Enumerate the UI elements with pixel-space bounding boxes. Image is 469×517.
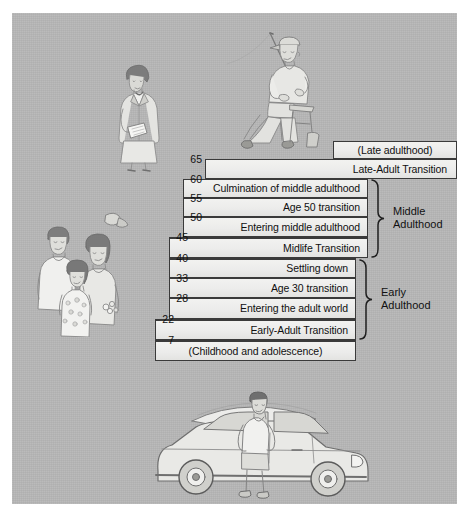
figure-panel: (Late adulthood) Late-Adult Transition C…	[12, 13, 457, 504]
stage-label: Culmination of middle adulthood	[213, 183, 360, 194]
age-tick-28: 28	[166, 293, 188, 304]
stage-label: Settling down	[286, 263, 348, 274]
stage-bar-childhood-adolescence: (Childhood and adolescence)	[155, 340, 356, 361]
age-tick-7: 7	[152, 335, 174, 346]
figure-root: (Late adulthood) Late-Adult Transition C…	[0, 0, 469, 517]
age-tick-50: 50	[180, 212, 202, 223]
stage-bar-late-adulthood: (Late adulthood)	[333, 141, 457, 159]
era-label-middle-adulthood: Middle Adulthood	[393, 205, 443, 232]
stage-bar-age-50-transition: Age 50 transition	[183, 198, 368, 217]
age-tick-40: 40	[166, 253, 188, 264]
stage-bar-settling-down: Settling down	[169, 258, 356, 278]
young-man-car-illustration	[152, 387, 382, 499]
age-tick-33: 33	[166, 273, 188, 284]
stage-label: Midlife Transition	[283, 243, 360, 254]
age-tick-55: 55	[180, 193, 202, 204]
stage-label: Entering the adult world	[240, 303, 348, 314]
stage-bar-late-adult-transition: Late-Adult Transition	[205, 159, 457, 179]
era-label-line1: Early	[381, 286, 431, 299]
stage-bar-age-30-transition: Age 30 transition	[169, 278, 356, 298]
era-label-line2: Adulthood	[381, 299, 431, 312]
stage-bar-culmination-middle: Culmination of middle adulthood	[183, 179, 368, 198]
era-label-early-adulthood: Early Adulthood	[381, 286, 431, 313]
stage-bar-early-adult-transition: Early-Adult Transition	[155, 319, 356, 340]
stage-label: Age 30 transition	[271, 283, 348, 294]
stage-bar-entering-adult-world: Entering the adult world	[169, 298, 356, 319]
stage-label: (Childhood and adolescence)	[189, 346, 323, 357]
middle-adulthood-brace	[370, 179, 386, 258]
stage-label: Early-Adult Transition	[250, 325, 348, 336]
age-tick-60: 60	[180, 174, 202, 185]
age-tick-45: 45	[166, 232, 188, 243]
era-label-line2: Adulthood	[393, 218, 443, 231]
early-adulthood-brace	[358, 259, 374, 340]
stage-label: Entering middle adulthood	[240, 222, 360, 233]
fisherman-illustration	[224, 31, 342, 153]
stage-label: (Late adulthood)	[358, 145, 433, 156]
stage-label: Late-Adult Transition	[353, 164, 447, 175]
businesswoman-illustration	[106, 57, 176, 172]
stage-bar-entering-middle-adulthood: Entering middle adulthood	[183, 217, 368, 237]
stage-bar-midlife-transition: Midlife Transition	[169, 237, 368, 258]
stage-label: Age 50 transition	[283, 202, 360, 213]
family-illustration	[34, 209, 139, 337]
age-tick-22: 22	[152, 314, 174, 325]
era-label-line1: Middle	[393, 205, 443, 218]
age-tick-65: 65	[180, 154, 202, 165]
